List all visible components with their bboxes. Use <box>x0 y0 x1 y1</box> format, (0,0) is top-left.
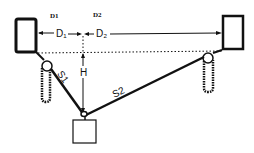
cable-s2 <box>86 57 204 115</box>
reference-dotted-line <box>38 51 222 53</box>
header-label-d1: D1 <box>50 12 59 20</box>
suspended-weight <box>73 120 96 143</box>
left-pulley-chain <box>36 52 52 102</box>
hook-knot <box>81 112 87 117</box>
right-support-block <box>223 16 243 49</box>
dimension-label-d1: D₁ <box>56 28 67 39</box>
right-pulley-chain <box>203 50 222 92</box>
suspension-diagram: D1 D2 D₁ D₂ H S1 <box>0 0 254 153</box>
dimension-label-h: H <box>80 67 87 78</box>
left-support-block <box>16 19 36 52</box>
segment-label-s1: S1 <box>55 69 71 86</box>
header-label-d2: D2 <box>93 11 102 19</box>
dimension-h <box>81 53 85 113</box>
dimension-label-d2: D₂ <box>96 28 107 39</box>
